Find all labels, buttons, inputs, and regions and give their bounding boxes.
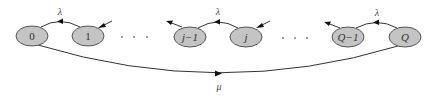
lambda-label: λ bbox=[374, 7, 380, 18]
state-transition-diagram: λ λ λ μ 0 1 j−1 j bbox=[0, 0, 437, 97]
arrow-icon bbox=[57, 19, 63, 25]
state-node-j-1: j−1 bbox=[174, 27, 206, 47]
node-label: j−1 bbox=[180, 31, 198, 43]
lambda-label: λ bbox=[215, 6, 221, 17]
node-label: 1 bbox=[85, 30, 91, 42]
edge-0-to-Q bbox=[38, 45, 398, 73]
arrow-icon bbox=[98, 23, 106, 28]
state-node-j: j bbox=[230, 27, 262, 47]
state-node-0: 0 bbox=[16, 26, 48, 46]
arrow-icon bbox=[166, 21, 173, 26]
arrow-icon bbox=[324, 22, 331, 27]
state-node-Q: Q bbox=[389, 27, 421, 47]
state-node-Q-1: Q−1 bbox=[332, 27, 364, 47]
ellipsis-right bbox=[282, 37, 308, 39]
node-label: 0 bbox=[29, 30, 35, 42]
node-label: Q bbox=[401, 31, 409, 43]
arrow-icon bbox=[215, 71, 222, 77]
arrow-icon bbox=[256, 23, 264, 28]
lambda-label: λ bbox=[57, 6, 63, 17]
mu-label: μ bbox=[215, 81, 221, 92]
state-node-1: 1 bbox=[72, 26, 104, 46]
arrow-icon bbox=[373, 20, 379, 26]
ellipsis-left bbox=[121, 36, 148, 38]
arrow-icon bbox=[214, 19, 220, 25]
node-label: Q−1 bbox=[338, 31, 359, 43]
